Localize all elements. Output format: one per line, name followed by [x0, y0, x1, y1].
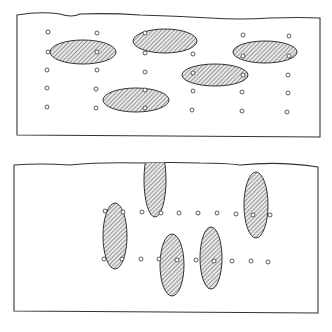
- diagram-canvas: [0, 0, 332, 332]
- grid-point: [287, 34, 291, 38]
- grid-point: [45, 68, 49, 72]
- grid-point: [251, 213, 255, 217]
- grid-point: [143, 88, 147, 92]
- grid-point: [230, 259, 234, 263]
- grid-point: [159, 211, 163, 215]
- grid-point: [177, 211, 181, 215]
- grid-point: [234, 212, 238, 216]
- grid-point: [121, 210, 125, 214]
- grid-point: [249, 259, 253, 263]
- grid-point: [157, 257, 161, 261]
- hatched-region: [160, 234, 184, 296]
- grid-point: [241, 54, 245, 58]
- grid-point: [95, 68, 99, 72]
- grid-point: [143, 106, 147, 110]
- grid-point: [286, 91, 290, 95]
- bottom-panel: [14, 143, 318, 313]
- top-panel: [17, 13, 320, 137]
- grid-point: [212, 259, 216, 263]
- grid-point: [45, 105, 49, 109]
- grid-point: [46, 50, 50, 54]
- hatched-region: [233, 41, 297, 63]
- grid-point: [286, 73, 290, 77]
- hatched-region: [144, 143, 166, 217]
- grid-point: [191, 71, 195, 75]
- grid-point: [194, 258, 198, 262]
- grid-point: [45, 86, 49, 90]
- grid-point: [103, 209, 107, 213]
- hatched-region: [200, 227, 222, 289]
- hatched-region: [244, 172, 268, 238]
- grid-point: [95, 50, 99, 54]
- grid-point: [140, 210, 144, 214]
- grid-point: [120, 257, 124, 261]
- grid-point: [215, 211, 219, 215]
- grid-point: [240, 109, 244, 113]
- grid-point: [287, 54, 291, 58]
- grid-point: [191, 52, 195, 56]
- hatched-region: [50, 40, 116, 64]
- grid-point: [191, 89, 195, 93]
- grid-point: [241, 73, 245, 77]
- grid-point: [46, 30, 50, 34]
- grid-point: [94, 106, 98, 110]
- grid-point: [143, 70, 147, 74]
- grid-point: [102, 257, 106, 261]
- grid-point: [190, 108, 194, 112]
- grid-point: [139, 257, 143, 261]
- grid-point: [143, 51, 147, 55]
- grid-point: [285, 110, 289, 114]
- grid-point: [266, 260, 270, 264]
- grid-point: [95, 31, 99, 35]
- hatched-region: [133, 29, 197, 53]
- grid-point: [94, 87, 98, 91]
- hatched-region: [103, 88, 169, 112]
- grid-point: [196, 211, 200, 215]
- grid-point: [143, 31, 147, 35]
- grid-point: [175, 258, 179, 262]
- grid-point: [241, 33, 245, 37]
- grid-point: [268, 213, 272, 217]
- grid-point: [240, 90, 244, 94]
